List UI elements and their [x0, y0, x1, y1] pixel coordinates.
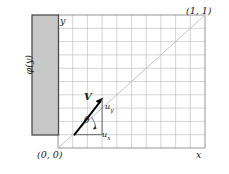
- component-uy-label: uy: [105, 103, 114, 113]
- figure-vector-graphics: [0, 0, 229, 174]
- component-uy-subscript: y: [110, 106, 113, 113]
- component-ux-subscript: x: [107, 134, 110, 141]
- angle-label: θ: [84, 116, 89, 125]
- velocity-vector-label: V: [84, 92, 92, 102]
- corner-label: (1, 1): [186, 6, 212, 16]
- component-ux-label: ux: [102, 131, 111, 141]
- inlet-boundary-block: [32, 15, 59, 135]
- origin-label: (0, 0): [37, 150, 63, 160]
- x-axis-label: x: [196, 150, 201, 160]
- boundary-profile-label: φ(y): [24, 42, 34, 88]
- y-axis-label: y: [60, 16, 65, 26]
- figure-canvas: (0, 0) (1, 1) x y φ(y) V θ uy ux: [0, 0, 229, 174]
